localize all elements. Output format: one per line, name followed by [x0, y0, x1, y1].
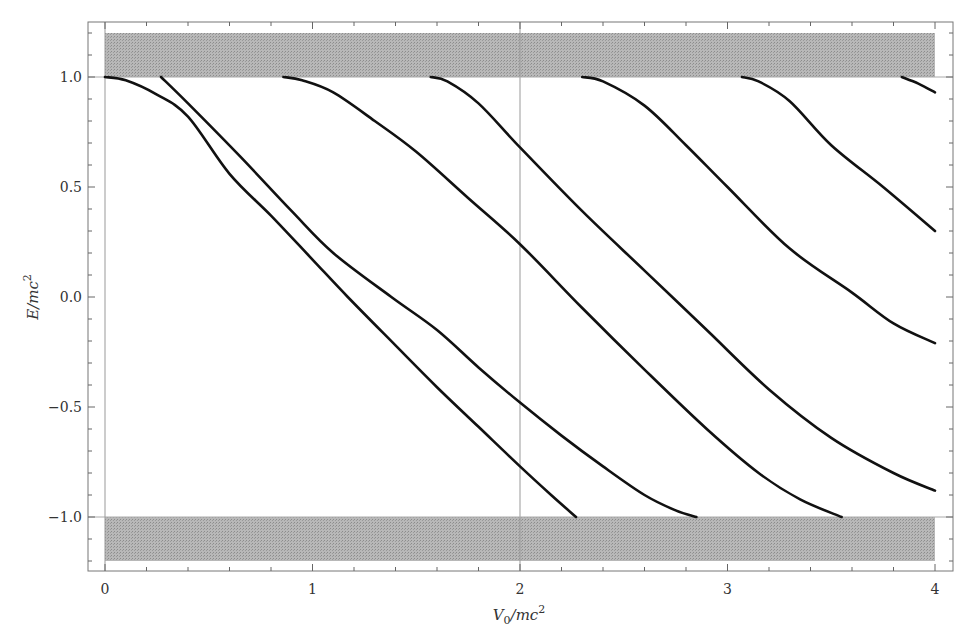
x-axis-label: V0/mc2 — [493, 603, 546, 627]
energy-level-curve — [902, 77, 935, 92]
y-tick-label: 0.0 — [60, 289, 82, 305]
y-tick-label: 1.0 — [60, 69, 82, 85]
x-tick-label: 2 — [516, 581, 525, 597]
y-tick-label: 0.5 — [60, 179, 82, 195]
x-tick-label: 4 — [931, 581, 940, 597]
energy-level-curve — [582, 77, 935, 343]
bound-state-energy-chart: 012341.00.50.0−0.5−1.0 V0/mc2 E/mc2 — [0, 0, 973, 644]
reference-lines — [88, 22, 953, 571]
y-tick-label: −1.0 — [48, 509, 82, 525]
energy-level-curve — [431, 77, 935, 491]
x-tick-label: 3 — [723, 581, 732, 597]
energy-level-curve — [742, 77, 935, 231]
energy-level-curve — [283, 77, 841, 517]
y-axis-label: E/mc2 — [21, 274, 42, 321]
energy-level-curve — [105, 77, 576, 517]
y-tick-label: −0.5 — [48, 399, 82, 415]
x-tick-label: 1 — [308, 581, 317, 597]
energy-level-curve — [161, 77, 696, 517]
x-tick-label: 0 — [101, 581, 110, 597]
